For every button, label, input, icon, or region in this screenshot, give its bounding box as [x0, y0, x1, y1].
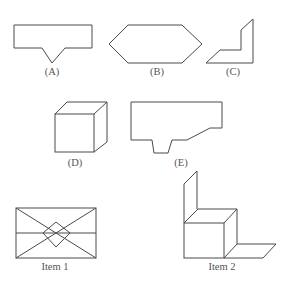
item-2-label: Item 2	[208, 261, 235, 272]
option-e: (E)	[131, 102, 222, 169]
spatial-reasoning-figure: (A) (B) (C) (D) (E) Item 1	[0, 0, 291, 284]
item-2-shape	[184, 171, 276, 258]
item-1-label: Item 1	[41, 261, 68, 272]
item-1-shape	[16, 208, 96, 258]
option-d-label: (D)	[68, 157, 83, 169]
item-1: Item 1	[16, 208, 96, 272]
option-d-shape	[55, 102, 107, 152]
option-a: (A)	[14, 25, 92, 78]
option-c-shape	[206, 19, 253, 63]
option-e-shape	[131, 102, 222, 153]
option-d: (D)	[55, 102, 107, 169]
option-b-shape	[109, 25, 202, 63]
option-b: (B)	[109, 25, 202, 78]
option-e-label: (E)	[174, 157, 188, 169]
option-c: (C)	[206, 19, 253, 78]
option-b-label: (B)	[150, 66, 165, 78]
option-a-shape	[14, 25, 92, 63]
item-2: Item 2	[184, 171, 276, 272]
option-a-label: (A)	[45, 66, 60, 78]
option-c-label: (C)	[226, 66, 241, 78]
